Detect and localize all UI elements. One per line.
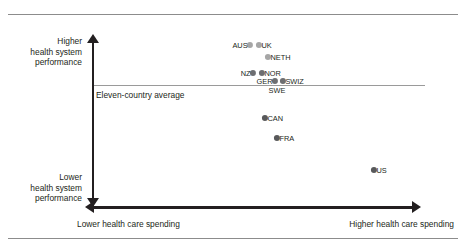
data-point-label: UK <box>261 40 271 49</box>
data-point-marker-icon <box>250 69 256 75</box>
data-point-marker-icon <box>247 41 253 47</box>
y-axis-bottom-caption-line-2: health system <box>0 183 82 194</box>
data-point-marker-icon <box>272 77 278 83</box>
x-axis-right-arrow-icon <box>412 201 421 213</box>
x-axis-line <box>94 206 414 208</box>
x-axis-left-caption: Lower health care spending <box>77 219 180 229</box>
bottom-divider-rule <box>8 238 458 239</box>
eleven-country-average-label: Eleven-country average <box>96 90 184 100</box>
data-point-label: NZ <box>241 68 251 77</box>
y-axis-bottom-caption: Lower health system performance <box>0 172 82 204</box>
data-point-label: SWIZ <box>285 76 303 85</box>
data-point-label: NETH <box>270 53 290 62</box>
y-axis-top-caption-line-3: performance <box>0 57 82 68</box>
top-divider-rule <box>8 14 458 15</box>
eleven-country-average-line <box>94 85 425 86</box>
y-axis-line <box>92 42 94 200</box>
y-axis-top-caption-line-2: health system <box>0 47 82 58</box>
y-axis-bottom-caption-line-1: Lower <box>0 172 82 183</box>
health-system-performance-scatter-chart: Higher health system performance Lower h… <box>0 0 466 250</box>
x-axis-right-caption: Higher health care spending <box>349 219 454 229</box>
data-point-label: FRA <box>279 134 294 143</box>
y-axis-top-caption: Higher health system performance <box>0 36 82 68</box>
data-point-label: GER <box>257 76 273 85</box>
data-point-label: CAN <box>267 114 283 123</box>
data-point-label: AUS <box>232 40 247 49</box>
y-axis-up-arrow-icon <box>87 34 99 43</box>
x-axis-left-arrow-icon <box>85 201 94 213</box>
data-point-label: US <box>376 166 386 175</box>
y-axis-bottom-caption-line-3: performance <box>0 193 82 204</box>
data-point-label: SWE <box>269 86 286 95</box>
y-axis-top-caption-line-1: Higher <box>0 36 82 47</box>
